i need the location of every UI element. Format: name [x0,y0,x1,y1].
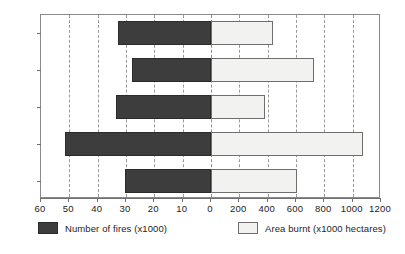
gridline-40 [98,15,99,197]
bar-fires-1983 [132,58,211,82]
x-axis-tick-10 [182,198,183,202]
legend-entry-area: Area burnt (x1000 hectares) [238,222,386,234]
x-axis-tick-60 [40,198,41,202]
x-axis-tick-1200 [380,198,381,202]
x-axis-tick-200 [238,198,239,202]
legend-label-fires: Number of fires (x1000) [65,223,167,234]
x-axis-tick-600 [295,198,296,202]
bar-area-1985 [211,132,363,156]
x-axis-tick-50 [68,198,69,202]
gridline-50 [69,15,70,197]
plot-area: 19821983198419851986 [40,14,380,198]
bar-area-1984 [211,95,265,119]
y-axis-tick-1984 [37,107,41,108]
fire-statistics-chart: 19821983198419851986 6050403020100200400… [0,0,405,254]
x-axis-tick-20 [153,198,154,202]
bar-fires-1982 [118,21,212,45]
x-axis-tick-800 [323,198,324,202]
y-axis-tick-1985 [37,144,41,145]
gridline-800 [324,15,325,197]
bar-fires-1984 [116,95,211,119]
bar-fires-1985 [65,132,211,156]
x-axis-tick-30 [125,198,126,202]
x-axis-tick-1000 [352,198,353,202]
legend-label-area: Area burnt (x1000 hectares) [265,223,386,234]
legend-swatch-area-icon [238,222,258,234]
bar-area-1983 [211,58,314,82]
bar-area-1982 [211,21,273,45]
legend-swatch-fires-icon [38,222,58,234]
chart-legend: Number of fires (x1000)Area burnt (x1000… [0,222,405,244]
y-axis-tick-1983 [37,70,41,71]
x-axis-tick-400 [267,198,268,202]
bar-area-1986 [211,169,297,193]
legend-entry-fires: Number of fires (x1000) [38,222,167,234]
x-axis-tick-40 [97,198,98,202]
x-axis-tick-0 [210,198,211,202]
y-axis-tick-1982 [37,33,41,34]
y-axis-tick-1986 [37,181,41,182]
x-axis-line: 605040302010020040060080010001200 [40,198,380,199]
x-axis-label-1200: 1200 [360,203,400,214]
gridline-1000 [353,15,354,197]
bar-fires-1986 [125,169,211,193]
